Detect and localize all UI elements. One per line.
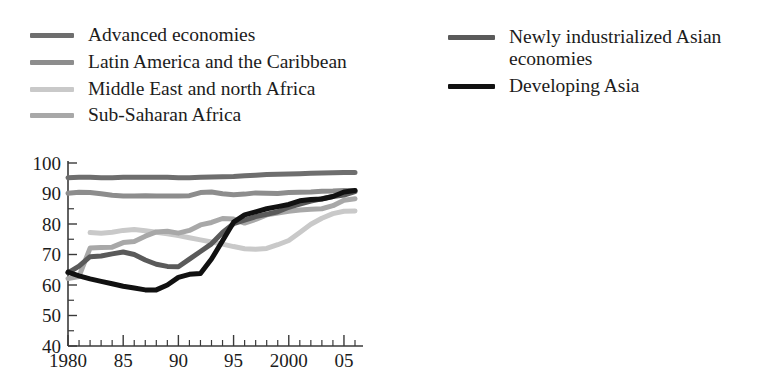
legend-item-middle-east-north-africa[interactable]: Middle East and north Africa [30,78,430,100]
x-tick-label: 1980 [49,350,87,371]
x-tick-label: 05 [334,350,353,371]
legend-column-left: Advanced economies Latin America and the… [30,24,430,131]
legend-column-right: Newly industrialized Asian economies Dev… [448,26,748,101]
legend-label-advanced-economies: Advanced economies [88,24,255,46]
legend-item-latin-america-caribbean[interactable]: Latin America and the Caribbean [30,51,430,73]
chart-legend: Advanced economies Latin America and the… [0,0,766,140]
legend-label-latin-america-caribbean: Latin America and the Caribbean [88,51,347,73]
series-line-sub-saharan-africa [68,199,355,279]
x-tick-label: 2000 [270,350,308,371]
figure-root: Advanced economies Latin America and the… [0,0,766,382]
legend-label-middle-east-north-africa: Middle East and north Africa [88,78,315,100]
legend-swatch-advanced-economies [30,33,74,38]
legend-label-newly-industrialized-asian-economies: Newly industrialized Asian economies [509,26,748,70]
legend-item-developing-asia[interactable]: Developing Asia [448,75,748,97]
line-chart: 1009080706050401980859095200005 [0,148,430,382]
y-tick-label: 80 [42,214,61,235]
legend-swatch-sub-saharan-africa [30,113,74,118]
y-tick-label: 100 [33,153,62,174]
y-tick-label: 70 [42,244,61,265]
legend-swatch-developing-asia [448,84,495,89]
plot-area: 1009080706050401980859095200005 [0,148,430,382]
y-tick-label: 90 [42,183,61,204]
x-tick-label: 85 [114,350,133,371]
legend-swatch-middle-east-north-africa [30,87,74,92]
y-tick-label: 60 [42,275,61,296]
x-tick-label: 95 [224,350,243,371]
legend-item-sub-saharan-africa[interactable]: Sub-Saharan Africa [30,104,430,126]
legend-label-developing-asia: Developing Asia [509,75,640,97]
x-tick-label: 90 [169,350,188,371]
legend-swatch-latin-america-caribbean [30,60,74,65]
y-tick-label: 50 [42,305,61,326]
legend-item-newly-industrialized-asian-economies[interactable]: Newly industrialized Asian economies [448,26,748,70]
legend-item-advanced-economies[interactable]: Advanced economies [30,24,430,46]
series-line-advanced-economies [68,172,355,177]
series-line-latin-america-and-the-caribbean [68,190,355,195]
legend-swatch-newly-industrialized-asian-economies [448,35,495,40]
legend-label-sub-saharan-africa: Sub-Saharan Africa [88,104,241,126]
